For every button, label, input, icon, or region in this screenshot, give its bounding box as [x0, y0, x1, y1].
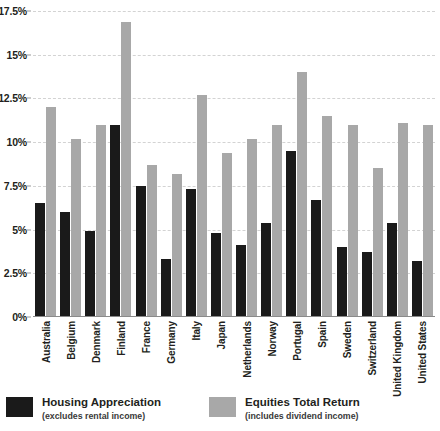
y-axis-tick-label: 17.5% [0, 5, 27, 17]
x-axis-label-slot: Portugal [286, 319, 307, 391]
bar-housing [60, 212, 70, 317]
bar-group [311, 11, 332, 317]
x-axis-label: Sweden [342, 321, 353, 358]
y-axis-tick-mark [27, 11, 31, 12]
bar-group [186, 11, 207, 317]
bar-housing [286, 151, 296, 317]
x-axis-label-slot: United Kingdom [387, 319, 408, 391]
x-axis-label: Netherlands [241, 321, 252, 378]
bar-group [412, 11, 433, 317]
bar-group [60, 11, 81, 317]
bar-equities [322, 116, 332, 317]
y-axis-tick-label: 7.5% [4, 180, 27, 192]
bar-equities [71, 139, 81, 317]
bar-equities [197, 95, 207, 317]
legend-swatch-equities-icon [209, 397, 236, 417]
bar-equities [147, 165, 157, 317]
y-axis-tick-label: 0% [12, 311, 27, 323]
legend-item-equities-total-return: Equities Total Return (includes dividend… [209, 396, 360, 430]
x-axis-label: Belgium [65, 321, 76, 360]
y-axis-tick-label: 5% [12, 224, 27, 236]
bar-housing [261, 223, 271, 317]
bar-housing [85, 231, 95, 317]
legend-swatch-housing-icon [6, 397, 33, 417]
x-axis-label-slot: Germany [161, 319, 182, 391]
bar-group [161, 11, 182, 317]
y-axis-tick-label: 10% [7, 136, 27, 148]
bar-housing [311, 200, 321, 317]
bar-group [236, 11, 257, 317]
x-axis-label-slot: United States [412, 319, 433, 391]
x-axis-label-slot: Norway [261, 319, 282, 391]
x-axis-label: United Kingdom [392, 321, 403, 397]
plot-area [33, 11, 435, 317]
bar-group [337, 11, 358, 317]
bar-equities [297, 72, 307, 317]
x-axis-baseline [33, 316, 435, 317]
x-axis-label: Norway [266, 321, 277, 357]
chart-container: 0%2.5%5%7.5%10%12.5%15%17.5% AustraliaBe… [0, 0, 440, 431]
legend-item-housing-appreciation: Housing Appreciation (excludes rental in… [6, 396, 161, 430]
y-axis-tick-mark [27, 273, 31, 274]
y-axis-tick-mark [27, 185, 31, 186]
x-axis-label-slot: Sweden [337, 319, 358, 391]
x-axis-label: Australia [40, 321, 51, 363]
x-axis-label-slot: Denmark [85, 319, 106, 391]
x-axis-label-slot: Australia [35, 319, 56, 391]
bar-equities [172, 174, 182, 317]
y-axis-tick-mark [27, 317, 31, 318]
bar-housing [387, 223, 397, 317]
x-axis-label: Portugal [291, 321, 302, 361]
bar-equities [247, 139, 257, 317]
bar-group [136, 11, 157, 317]
x-axis-label: Italy [191, 321, 202, 341]
chart-legend: Housing Appreciation (excludes rental in… [6, 396, 436, 430]
bar-housing [186, 189, 196, 317]
x-axis-label: Spain [316, 321, 327, 348]
bar-housing [236, 245, 246, 317]
x-axis-label-slot: Japan [211, 319, 232, 391]
bar-equities [398, 123, 408, 317]
y-axis-tick-mark [27, 98, 31, 99]
bar-equities [373, 168, 383, 317]
bar-group [286, 11, 307, 317]
legend-label-equities: Equities Total Return [245, 396, 360, 409]
bar-housing [35, 203, 45, 317]
x-axis-label-slot: Netherlands [236, 319, 257, 391]
bar-equities [348, 125, 358, 317]
bar-group [85, 11, 106, 317]
x-axis-label-slot: Finland [110, 319, 131, 391]
bar-group [211, 11, 232, 317]
bar-housing [362, 252, 372, 317]
bar-housing [337, 247, 347, 317]
x-axis-label-slot: Switzerland [362, 319, 383, 391]
bar-housing [161, 259, 171, 317]
x-axis-labels: AustraliaBelgiumDenmarkFinlandFranceGerm… [33, 319, 435, 391]
y-axis-tick-label: 2.5% [4, 267, 27, 279]
bar-equities [121, 22, 131, 318]
y-axis-tick-label: 15% [7, 49, 27, 61]
bar-group [110, 11, 131, 317]
bar-equities [46, 107, 56, 317]
bar-equities [272, 125, 282, 317]
bar-housing [211, 233, 221, 317]
bar-group [35, 11, 56, 317]
legend-sublabel-housing: (excludes rental income) [42, 411, 161, 421]
y-axis-tick-mark [27, 142, 31, 143]
x-axis-label: Japan [216, 321, 227, 349]
bar-housing [136, 186, 146, 317]
y-axis-tick-mark [27, 229, 31, 230]
bar-housing [110, 125, 120, 317]
bar-equities [222, 153, 232, 317]
bar-group [387, 11, 408, 317]
y-axis-tick-mark [27, 54, 31, 55]
legend-sublabel-equities: (includes dividend income) [245, 411, 360, 421]
legend-label-housing: Housing Appreciation [42, 396, 161, 409]
y-axis-tick-label: 12.5% [0, 92, 27, 104]
bar-group [261, 11, 282, 317]
x-axis-label-slot: Italy [186, 319, 207, 391]
x-axis-label-slot: Belgium [60, 319, 81, 391]
x-axis-label-slot: France [136, 319, 157, 391]
x-axis-label: France [141, 321, 152, 353]
bar-group [362, 11, 383, 317]
